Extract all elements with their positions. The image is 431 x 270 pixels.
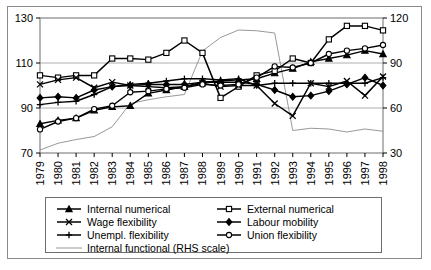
series-unempl-flexibility (37, 74, 386, 107)
marker-diamond (362, 74, 368, 81)
marker-circle (290, 65, 295, 70)
marker-plus (271, 80, 277, 86)
legend-item-wage-flexibility[interactable]: Wage flexibility (54, 215, 157, 228)
marker-circle (37, 127, 42, 132)
marker-square (92, 73, 97, 78)
marker-cross (290, 113, 296, 119)
left-axis-tick-label: 110 (15, 57, 33, 69)
x-axis-tick-label: 1980 (52, 161, 64, 185)
series-union-flexibility (37, 42, 385, 132)
x-axis-tick-label: 1997 (359, 161, 371, 185)
legend-label: Internal functional (RHS scale) (84, 242, 229, 254)
marker-square (146, 57, 151, 62)
left-axis-tick-label: 90 (21, 102, 33, 114)
left-axis-tick-label: 130 (15, 12, 33, 24)
x-axis-tick-label: 1982 (88, 161, 100, 185)
marker-square (344, 23, 349, 28)
marker-circle (55, 119, 60, 124)
marker-square (290, 56, 295, 61)
series-internal-numerical (37, 47, 386, 126)
marker-circle (362, 46, 367, 51)
marker-cross (362, 93, 368, 99)
legend-label: Unempl. flexibility (84, 229, 169, 241)
series-labour-mobility (37, 74, 386, 101)
marker-square (164, 50, 169, 55)
marker-circle (146, 89, 151, 94)
marker-plus (55, 99, 61, 105)
marker-diamond (290, 93, 296, 100)
x-axis-tick-label: 1991 (251, 161, 263, 185)
marker-plus (362, 80, 368, 86)
legend-symbol-diamond-icon (214, 216, 244, 228)
legend-symbol-plus-icon (54, 229, 84, 241)
legend-symbol-circle-icon (214, 229, 244, 241)
marker-circle (380, 42, 385, 47)
legend-symbol-triangle-icon (54, 203, 84, 215)
legend-item-unempl-flexibility[interactable]: Unempl. flexibility (54, 228, 169, 241)
x-axis-tick-label: 1986 (160, 161, 172, 185)
left-axis-tick-label: 70 (21, 147, 33, 159)
marker-square (110, 56, 115, 61)
marker-circle (254, 75, 259, 80)
marker-square (362, 23, 367, 28)
chart-legend: Internal numericalExternal numericalWage… (45, 197, 382, 253)
legend-item-labour-mobility[interactable]: Labour mobility (214, 215, 318, 228)
x-axis-tick-label: 1994 (305, 161, 317, 185)
x-axis-tick-label: 1989 (215, 161, 227, 185)
marker-diamond (55, 93, 61, 100)
marker-square (128, 56, 133, 61)
marker-circle (272, 64, 277, 69)
marker-square (182, 38, 187, 43)
right-axis-tick-label: 30 (390, 147, 402, 159)
marker-circle (344, 48, 349, 53)
marker-plus (37, 101, 43, 107)
marker-cross (272, 101, 278, 107)
marker-square (218, 95, 223, 100)
marker-circle (182, 85, 187, 90)
marker-diamond (226, 218, 232, 225)
x-axis-tick-label: 1985 (142, 161, 154, 185)
marker-plus (181, 76, 187, 82)
right-axis-tick-label: 90 (390, 57, 402, 69)
x-axis-tick-label: 1992 (269, 161, 281, 185)
right-axis-tick-label: 60 (390, 102, 402, 114)
marker-plus (66, 231, 72, 237)
marker-square (200, 50, 205, 55)
marker-diamond (308, 92, 314, 99)
marker-circle (218, 83, 223, 88)
legend-label: Union flexibility (244, 229, 317, 241)
marker-circle (200, 82, 205, 87)
marker-plus (290, 80, 296, 86)
legend-label: Labour mobility (244, 216, 318, 228)
marker-square (226, 206, 231, 211)
marker-square (37, 73, 42, 78)
legend-label: Wage flexibility (84, 216, 157, 228)
legend-symbol-square-icon (214, 203, 244, 215)
legend-item-internal-functional-rhs-scale[interactable]: Internal functional (RHS scale) (54, 241, 229, 254)
x-axis-tick-label: 1990 (233, 161, 245, 185)
marker-diamond (37, 94, 43, 101)
marker-square (380, 28, 385, 33)
legend-item-union-flexibility[interactable]: Union flexibility (214, 228, 317, 241)
legend-items-container: Internal numericalExternal numericalWage… (46, 198, 381, 252)
marker-diamond (380, 82, 386, 89)
x-axis-tick-label: 1988 (196, 161, 208, 185)
chart-screenshot: 7090110130306090120197919801981198219831… (0, 0, 431, 270)
x-axis-tick-label: 1987 (178, 161, 190, 185)
marker-diamond (272, 87, 278, 94)
x-axis-tick-label: 1981 (70, 161, 82, 185)
x-axis-tick-label: 1996 (341, 161, 353, 185)
x-axis-tick-label: 1995 (323, 161, 335, 185)
legend-item-internal-numerical[interactable]: Internal numerical (54, 202, 170, 215)
x-axis-tick-label: 1993 (287, 161, 299, 185)
x-axis-tick-label: 1983 (106, 161, 118, 185)
marker-circle (110, 103, 115, 108)
legend-label: Internal numerical (84, 203, 170, 215)
right-axis-tick-label: 120 (390, 12, 408, 24)
legend-label: External numerical (244, 203, 334, 215)
legend-item-external-numerical[interactable]: External numerical (214, 202, 334, 215)
x-axis-tick-label: 1998 (377, 161, 389, 185)
marker-circle (164, 86, 169, 91)
marker-plus (91, 91, 97, 97)
marker-circle (226, 232, 231, 237)
